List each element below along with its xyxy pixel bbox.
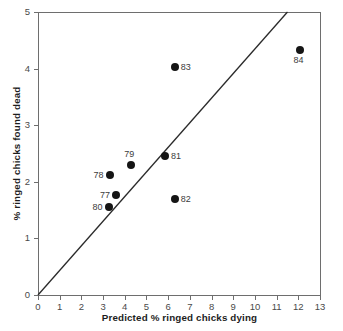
x-tick-label: 13	[308, 301, 332, 312]
y-tick	[34, 295, 38, 296]
x-tick-label: 12	[286, 301, 310, 312]
data-point-label-84: 84	[293, 55, 303, 65]
x-tick-label: 3	[91, 301, 115, 312]
axis-line-right	[320, 12, 321, 296]
x-tick	[60, 296, 61, 300]
scatter-plot-figure: 012345678910111213 012345 77787980818283…	[0, 0, 343, 331]
x-tick	[146, 296, 147, 300]
x-tick	[190, 296, 191, 300]
x-tick	[103, 296, 104, 300]
plot-area: 7778798081828384	[38, 12, 320, 295]
x-tick-label: 7	[178, 301, 202, 312]
x-tick	[277, 296, 278, 300]
data-point-77	[112, 191, 120, 199]
x-tick	[255, 296, 256, 300]
x-tick-label: 10	[243, 301, 267, 312]
x-tick-label: 5	[134, 301, 158, 312]
x-tick-label: 11	[265, 301, 289, 312]
data-point-82	[171, 195, 179, 203]
y-tick-label: 0	[16, 290, 30, 300]
x-tick-label: 9	[221, 301, 245, 312]
data-point-label-82: 82	[181, 194, 191, 204]
data-point-83	[171, 63, 179, 71]
x-tick	[233, 296, 234, 300]
x-tick	[212, 296, 213, 300]
x-tick	[298, 296, 299, 300]
x-tick	[168, 296, 169, 300]
x-tick-label: 6	[156, 301, 180, 312]
x-tick-label: 4	[113, 301, 137, 312]
y-axis-title: % ringed chicks found dead	[11, 54, 22, 254]
x-tick	[320, 296, 321, 300]
data-point-80	[105, 203, 113, 211]
x-axis-title: Predicted % ringed chicks dying	[38, 312, 321, 323]
x-tick	[81, 296, 82, 300]
data-point-label-78: 78	[90, 170, 104, 180]
x-tick-label: 1	[48, 301, 72, 312]
x-tick-label: 2	[69, 301, 93, 312]
data-point-label-80: 80	[89, 202, 103, 212]
data-point-78	[106, 171, 114, 179]
x-tick	[125, 296, 126, 300]
x-tick-label: 8	[200, 301, 224, 312]
data-point-label-81: 81	[171, 151, 181, 161]
x-tick-label: 0	[26, 301, 50, 312]
x-tick	[38, 296, 39, 300]
data-point-label-79: 79	[124, 149, 134, 159]
y-tick-label: 5	[16, 7, 30, 17]
data-point-label-77: 77	[96, 190, 110, 200]
data-point-label-83: 83	[181, 62, 191, 72]
